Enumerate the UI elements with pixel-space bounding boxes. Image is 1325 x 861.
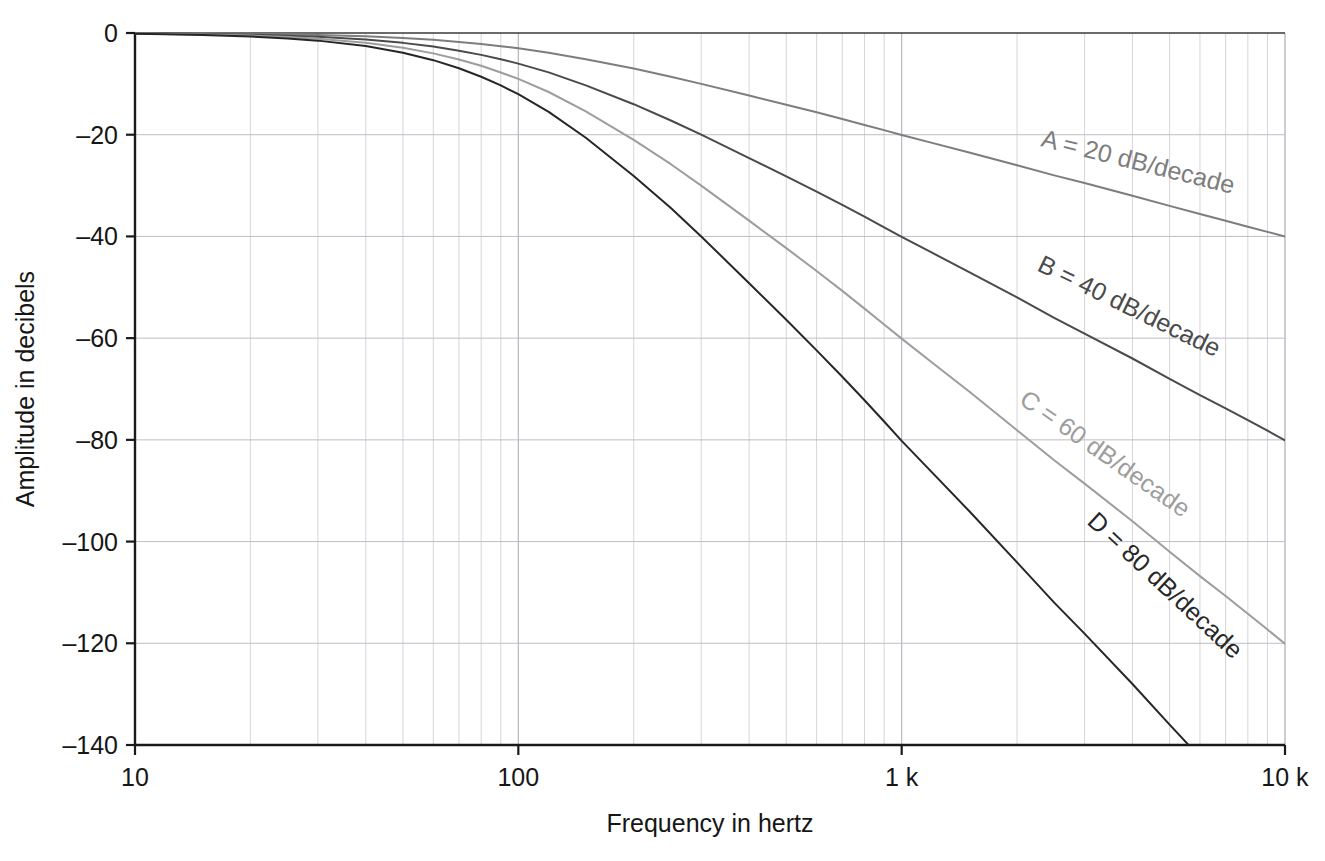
x-tick-label: 10 bbox=[121, 763, 149, 791]
y-tick-label: –120 bbox=[62, 629, 118, 657]
y-tick-label: –20 bbox=[76, 121, 118, 149]
y-tick-label: –60 bbox=[76, 324, 118, 352]
chart-page: 0–20–40–60–80–100–120–140101001 k10 k A … bbox=[0, 0, 1325, 861]
y-tick-label: 0 bbox=[104, 19, 118, 47]
y-tick-label: –40 bbox=[76, 222, 118, 250]
y-axis-title: Amplitude in decibels bbox=[11, 271, 39, 507]
y-tick-label: –80 bbox=[76, 426, 118, 454]
y-tick-label: –140 bbox=[62, 731, 118, 759]
x-tick-label: 100 bbox=[497, 763, 539, 791]
x-tick-label: 10 k bbox=[1261, 763, 1309, 791]
chart-background bbox=[0, 0, 1325, 861]
x-axis-title: Frequency in hertz bbox=[606, 809, 813, 837]
x-tick-label: 1 k bbox=[885, 763, 919, 791]
y-tick-label: –100 bbox=[62, 528, 118, 556]
bode-plot-chart: 0–20–40–60–80–100–120–140101001 k10 k A … bbox=[0, 0, 1325, 861]
